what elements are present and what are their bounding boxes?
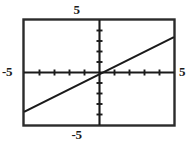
graph-figure: 5 -5 -5 5 xyxy=(0,0,191,144)
plot-area xyxy=(0,0,191,144)
